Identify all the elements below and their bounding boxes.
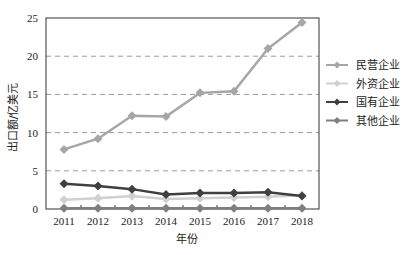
x-tick-label: 2014 xyxy=(155,215,178,227)
legend-marker xyxy=(334,99,341,106)
x-axis-title: 年份 xyxy=(176,232,198,246)
x-tick-label: 2018 xyxy=(291,215,314,227)
legend-item: 外资企业 xyxy=(326,77,400,91)
legend-marker xyxy=(334,80,341,87)
diamond-marker xyxy=(196,204,205,213)
line-chart: 20112012201320142015201620172018 0510152… xyxy=(0,0,404,255)
legend-marker xyxy=(334,117,341,124)
y-tick-label: 10 xyxy=(27,127,39,139)
plot-frame xyxy=(46,18,319,209)
legend-item: 民营企业 xyxy=(326,58,400,72)
legend-item: 国有企业 xyxy=(326,95,400,109)
legend-label: 民营企业 xyxy=(356,58,400,72)
x-tick-label: 2012 xyxy=(87,215,109,227)
diamond-marker xyxy=(94,182,103,191)
x-tick-label: 2017 xyxy=(257,215,280,227)
y-tick-label: 25 xyxy=(27,12,39,24)
diamond-marker xyxy=(162,204,171,213)
diamond-marker xyxy=(128,185,137,194)
diamond-marker xyxy=(230,204,239,213)
diamond-marker xyxy=(60,204,69,213)
y-axis-ticks: 0510152025 xyxy=(27,12,39,215)
y-tick-label: 5 xyxy=(33,165,39,177)
diamond-marker xyxy=(94,204,103,213)
diamond-marker xyxy=(60,195,69,204)
diamond-marker xyxy=(230,188,239,197)
x-tick-label: 2016 xyxy=(223,215,246,227)
legend: 民营企业外资企业国有企业其他企业 xyxy=(326,58,400,128)
y-tick-label: 20 xyxy=(27,50,39,62)
diamond-marker xyxy=(128,204,137,213)
x-tick-label: 2013 xyxy=(121,215,144,227)
series-line xyxy=(64,23,302,150)
y-axis-title: 出口额/亿美元 xyxy=(6,83,20,153)
legend-label: 外资企业 xyxy=(356,77,400,91)
legend-label: 其他企业 xyxy=(356,114,400,128)
legend-item: 其他企业 xyxy=(326,114,400,128)
diamond-marker xyxy=(60,145,69,154)
diamond-marker xyxy=(196,188,205,197)
diamond-marker xyxy=(264,204,273,213)
legend-marker xyxy=(334,62,341,69)
y-tick-label: 0 xyxy=(33,203,39,215)
diamond-marker xyxy=(264,188,273,197)
diamond-marker xyxy=(298,204,307,213)
grid-lines xyxy=(46,56,319,171)
y-tick-label: 15 xyxy=(27,88,39,100)
x-tick-label: 2011 xyxy=(53,215,75,227)
x-tick-label: 2015 xyxy=(189,215,212,227)
diamond-marker xyxy=(60,179,69,188)
series-0 xyxy=(60,18,307,154)
diamond-marker xyxy=(298,192,307,201)
legend-label: 国有企业 xyxy=(356,95,400,109)
series-lines xyxy=(60,18,307,213)
diamond-marker xyxy=(94,194,103,203)
